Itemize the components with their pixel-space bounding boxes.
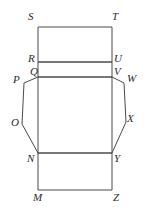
vertex-label-x: X [127,113,134,124]
vertex-label-m: M [33,192,42,203]
vertex-label-v: V [114,66,121,77]
vertex-label-y: Y [114,153,120,164]
face-ruvq-outline [38,62,112,77]
vertex-label-w: W [127,73,136,84]
vertex-label-o: O [11,117,19,128]
left-flap-qpon [22,77,38,153]
vertex-label-z: Z [113,192,119,203]
face-qvyn-outline [38,77,112,153]
vertex-label-p: P [13,74,20,85]
net-diagram-svg [0,0,150,219]
vertex-label-u: U [114,53,122,64]
vertex-label-q: Q [30,66,38,77]
vertex-label-n: N [27,153,34,164]
vertex-label-s: S [28,11,34,22]
net-diagram-figure: S T R U Q V P W O X N Y M Z [0,0,150,219]
face-stur-outline [38,27,112,62]
face-nyzm-outline [38,153,112,190]
right-flap-vwxy [112,77,126,153]
vertex-label-t: T [112,11,118,22]
vertex-label-r: R [28,53,35,64]
